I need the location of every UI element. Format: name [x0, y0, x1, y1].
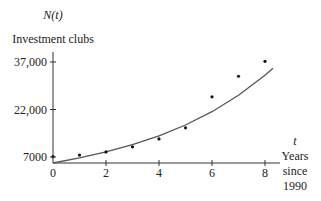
- x-tick-label: 6: [209, 166, 215, 180]
- data-points: [51, 60, 266, 159]
- data-point: [237, 75, 240, 78]
- x-tick-label: 0: [50, 166, 56, 180]
- x-tick-label: 8: [262, 166, 268, 180]
- data-point: [263, 60, 266, 63]
- x-axis-title-line-3: 1990: [283, 179, 307, 193]
- y-axis-variable: N(t): [42, 8, 62, 22]
- chart: 02468700022,00037,000 N(t) Investment cl…: [0, 0, 321, 201]
- y-tick-label: 37,000: [14, 55, 47, 69]
- y-axis-title: Investment clubs: [12, 32, 94, 46]
- x-tick-label: 4: [156, 166, 162, 180]
- data-point: [184, 126, 187, 129]
- x-tick-label: 2: [103, 166, 109, 180]
- fitted-curve: [53, 68, 273, 163]
- data-point: [78, 154, 81, 157]
- x-axis-variable: t: [293, 134, 297, 148]
- x-axis-title-line-1: Years: [282, 149, 309, 163]
- x-axis-title-line-2: since: [283, 164, 308, 178]
- y-tick-label: 7000: [23, 150, 47, 164]
- fitted-curve-path: [53, 68, 273, 163]
- data-point: [131, 145, 134, 148]
- y-tick-label: 22,000: [14, 103, 47, 117]
- data-point: [104, 150, 107, 153]
- axes: [53, 52, 280, 163]
- data-point: [157, 137, 160, 140]
- data-point: [210, 95, 213, 98]
- ticks: 02468700022,00037,000: [14, 55, 268, 180]
